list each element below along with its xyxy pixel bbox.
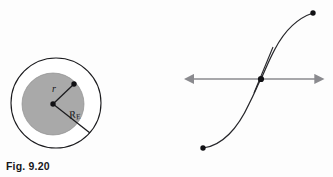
trajectory-curve	[203, 13, 313, 148]
figure-9-21: FG FA dl m B O Fig. 9.21	[166, 0, 333, 177]
radius-RE-label: RE	[68, 108, 81, 123]
radius-r-endpoint-dot	[71, 81, 76, 86]
dl-element-segment	[254, 47, 273, 93]
center-dot	[50, 101, 55, 106]
caption-fig-9-20: Fig. 9.20	[6, 160, 50, 172]
point-b-dot	[310, 10, 315, 15]
radius-r-label: r	[52, 83, 56, 94]
figure-9-21-graphic	[166, 0, 333, 177]
figure-9-20: r RE Fig. 9.20	[0, 0, 166, 177]
figure-sheet: r RE Fig. 9.20	[0, 0, 333, 177]
mass-m-dot	[258, 76, 264, 82]
figure-9-20-graphic	[0, 0, 166, 177]
point-o-dot	[200, 145, 205, 150]
